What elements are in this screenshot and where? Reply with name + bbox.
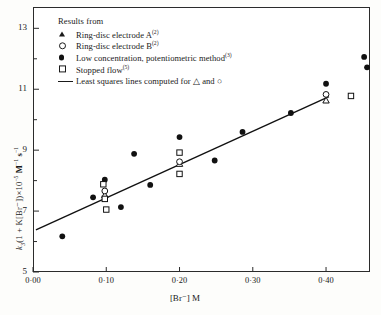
data-point-filled-circle	[288, 110, 294, 116]
legend-sup-ring-disc-b: (2)	[152, 40, 159, 46]
data-point-filled-circle	[177, 134, 183, 140]
x-tick-label: 0·20	[163, 276, 197, 285]
open-circle-icon	[58, 40, 76, 52]
data-point-filled-circle	[240, 129, 246, 135]
filled-circle-icon	[58, 52, 76, 64]
legend-label-least-squares: Least squares lines computed for △ and ○	[76, 76, 222, 86]
data-point-filled-circle	[59, 233, 65, 239]
open-triangle-icon	[58, 29, 76, 41]
legend-item-least-squares: Least squares lines computed for △ and ○	[58, 75, 328, 87]
data-point-filled-circle	[118, 204, 124, 210]
x-tick-label: 0·30	[236, 276, 270, 285]
legend: Results from Ring-disc electrode A(2) Ri…	[58, 16, 328, 86]
data-point-open-square	[177, 171, 182, 176]
x-axis-title: [Br⁻] M	[145, 293, 225, 303]
legend-sup-stopped-flow: (5)	[123, 64, 130, 70]
legend-label-ring-disc-b: Ring-disc electrode B	[76, 41, 152, 51]
data-point-open-square	[177, 150, 182, 155]
data-point-open-square	[348, 93, 353, 98]
legend-item-ring-disc-b: Ring-disc electrode B(2)	[58, 40, 328, 52]
x-tick-label: 0·00	[16, 276, 50, 285]
x-tick-label: 0·10	[89, 276, 123, 285]
chart-figure: Results from Ring-disc electrode A(2) Ri…	[0, 0, 381, 315]
data-point-open-circle	[323, 92, 329, 98]
open-square-icon	[58, 63, 76, 75]
data-point-filled-circle	[361, 54, 367, 60]
legend-item-ring-disc-a: Ring-disc electrode A(2)	[58, 29, 328, 41]
legend-sup-low-concentration: (3)	[225, 52, 232, 58]
data-point-filled-circle	[131, 151, 137, 157]
data-point-open-circle	[177, 159, 183, 165]
data-point-filled-circle	[147, 182, 153, 188]
data-point-filled-circle	[364, 64, 370, 70]
data-point-filled-circle	[90, 194, 96, 200]
legend-label-stopped-flow: Stopped flow	[76, 65, 123, 75]
line-swatch-icon	[58, 75, 76, 87]
legend-title: Results from	[58, 16, 328, 26]
data-point-open-triangle	[323, 97, 329, 103]
legend-label-low-concentration: Low concentration, potentiometric method	[76, 53, 225, 63]
legend-item-low-concentration: Low concentration, potentiometric method…	[58, 52, 328, 64]
y-title-exp: −5	[13, 176, 19, 182]
legend-sup-ring-disc-a: (2)	[152, 29, 159, 35]
legend-item-stopped-flow: Stopped flow(5)	[58, 63, 328, 75]
y-tick-label: 9	[11, 144, 27, 154]
y-tick-label: 5	[11, 266, 27, 276]
y-tick-label: 13	[11, 22, 27, 32]
data-point-open-square	[101, 182, 106, 187]
y-axis-title: k3(1 + K[Br⁻])×10−5 M−1 s−1	[13, 147, 26, 250]
x-tick-label: 0·40	[309, 276, 343, 285]
data-point-filled-circle	[212, 158, 218, 164]
y-title-unit-exp1: −1	[13, 159, 19, 165]
data-point-open-square	[104, 207, 109, 212]
y-tick-label: 11	[11, 83, 27, 93]
data-point-open-circle	[102, 188, 108, 194]
legend-label-ring-disc-a: Ring-disc electrode A	[76, 30, 152, 40]
y-tick-label: 7	[11, 205, 27, 215]
data-point-open-square	[102, 196, 107, 201]
